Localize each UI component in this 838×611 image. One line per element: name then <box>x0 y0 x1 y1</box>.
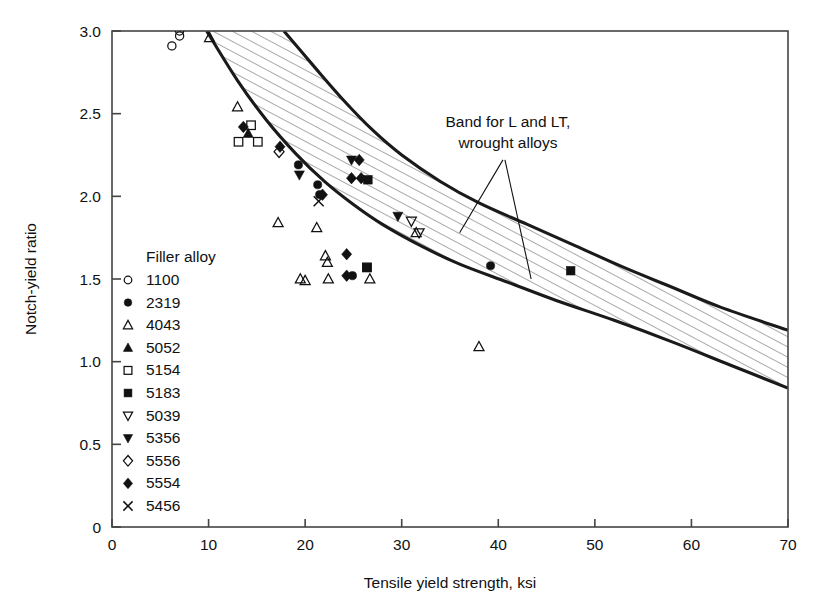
legend-label-5556: 5556 <box>146 452 180 469</box>
y-tick-label: 3.0 <box>79 23 101 40</box>
x-axis-label: Tensile yield strength, ksi <box>364 574 536 591</box>
legend-marker-2319 <box>124 299 132 307</box>
x-tick-label: 70 <box>779 536 797 553</box>
data-point-5183 <box>363 263 372 272</box>
y-tick-label: 0 <box>92 519 101 536</box>
x-tick-label: 30 <box>393 536 411 553</box>
data-point-2319 <box>294 161 302 169</box>
x-tick-label: 10 <box>200 536 218 553</box>
y-tick-label: 1.5 <box>79 271 101 288</box>
legend-label-1100: 1100 <box>146 271 180 288</box>
legend-label-5456: 5456 <box>146 497 180 514</box>
y-tick-label: 2.0 <box>79 188 101 205</box>
x-tick-label: 60 <box>683 536 701 553</box>
annotation-text-line-1: Band for L and LT, <box>445 113 570 130</box>
y-tick-label: 1.0 <box>79 353 101 370</box>
legend-marker-5183 <box>124 389 132 397</box>
legend-label-5554: 5554 <box>146 474 181 491</box>
x-tick-label: 40 <box>490 536 508 553</box>
y-axis-label: Notch-yield ratio <box>22 223 39 335</box>
legend-label-5154: 5154 <box>146 361 181 378</box>
x-tick-label: 50 <box>586 536 604 553</box>
y-tick-label: 0.5 <box>79 436 101 453</box>
legend-label-5039: 5039 <box>146 407 180 424</box>
x-tick-label: 20 <box>297 536 315 553</box>
legend-label-4043: 4043 <box>146 316 180 333</box>
data-point-2319 <box>486 262 494 270</box>
x-tick-label: 0 <box>108 536 117 553</box>
chart-figure: 010203040506070 00.51.01.52.02.53.0 Tens… <box>0 0 838 611</box>
data-point-2319 <box>314 181 322 189</box>
notch-yield-ratio-scatter-chart: 010203040506070 00.51.01.52.02.53.0 Tens… <box>0 0 838 611</box>
legend-label-2319: 2319 <box>146 294 180 311</box>
y-tick-label: 2.5 <box>79 105 101 122</box>
annotation-text-line-2: wrought alloys <box>457 134 557 151</box>
data-point-5183 <box>566 266 575 275</box>
legend-label-5183: 5183 <box>146 384 180 401</box>
legend-label-5356: 5356 <box>146 429 180 446</box>
legend-title: Filler alloy <box>146 248 216 265</box>
legend-label-5052: 5052 <box>146 339 180 356</box>
